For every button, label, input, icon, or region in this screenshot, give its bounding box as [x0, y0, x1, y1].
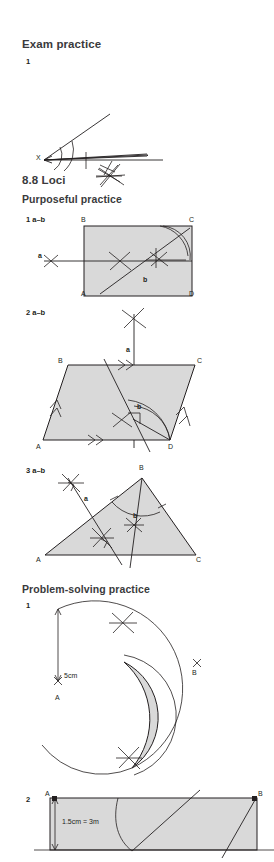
- vertex-label-par-B: B: [58, 357, 63, 364]
- heading-loci: 8.8 Loci: [22, 174, 66, 186]
- annotation-tri-b: b: [133, 512, 137, 519]
- point-marker-B: [191, 657, 205, 669]
- vertex-label-tri-C: C: [196, 556, 201, 563]
- point-label-A: A: [55, 694, 60, 701]
- vertex-label-X: X: [36, 154, 41, 161]
- scale-label: 1.5cm = 3m: [62, 818, 99, 825]
- heading-problem-solving-practice: Problem-solving practice: [22, 583, 150, 595]
- annotation-par-b: b: [137, 403, 141, 410]
- figure-scale-rectangle: [0, 788, 274, 862]
- vertex-label-rect-C: C: [189, 216, 194, 223]
- annotation-rect-a: a: [38, 252, 42, 259]
- corner-label-ps2-B: B: [258, 790, 263, 797]
- vertex-label-rect-B: B: [81, 216, 86, 223]
- heading-exam-practice: Exam practice: [22, 38, 101, 50]
- annotation-par-a: a: [126, 346, 130, 353]
- vertex-label-rect-D: D: [189, 290, 194, 297]
- dimension-label-5cm: 5cm: [64, 672, 77, 679]
- annotation-rect-b: b: [143, 276, 147, 283]
- vertex-label-par-D: D: [168, 443, 173, 450]
- vertex-label-tri-A: A: [36, 556, 41, 563]
- figure-parallelogram-loci: [0, 300, 274, 465]
- vertex-label-par-A: A: [36, 443, 41, 450]
- figure-locus-region: [0, 595, 274, 785]
- heading-purposeful-practice: Purposeful practice: [22, 193, 122, 205]
- point-label-B: B: [192, 669, 197, 676]
- vertex-label-tri-B: B: [139, 464, 144, 471]
- corner-label-ps2-A: A: [45, 790, 50, 797]
- vertex-label-rect-A: A: [81, 290, 86, 297]
- annotation-tri-a: a: [84, 495, 88, 502]
- worksheet-page: Exam practice 1: [0, 0, 274, 862]
- vertex-label-par-C: C: [197, 357, 202, 364]
- figure-angle-bisector: [0, 55, 274, 170]
